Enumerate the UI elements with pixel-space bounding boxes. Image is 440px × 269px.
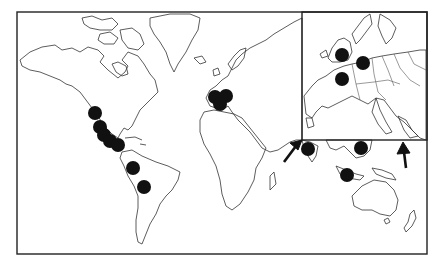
marker-indonesia <box>340 168 354 182</box>
marker-mexico-northwest <box>88 106 102 120</box>
marker-iberia-south <box>213 97 227 111</box>
map-svg <box>0 0 440 269</box>
marker-central-america <box>111 138 125 152</box>
marker-philippines-vietnam <box>354 141 368 155</box>
marker-france-north <box>335 72 349 86</box>
marker-england-south <box>335 48 349 62</box>
marker-germany-west <box>356 56 370 70</box>
marker-colombia-ecuador <box>126 161 140 175</box>
marker-peru-bolivia <box>137 180 151 194</box>
world-map-figure <box>0 0 440 269</box>
marker-india-south <box>301 142 315 156</box>
